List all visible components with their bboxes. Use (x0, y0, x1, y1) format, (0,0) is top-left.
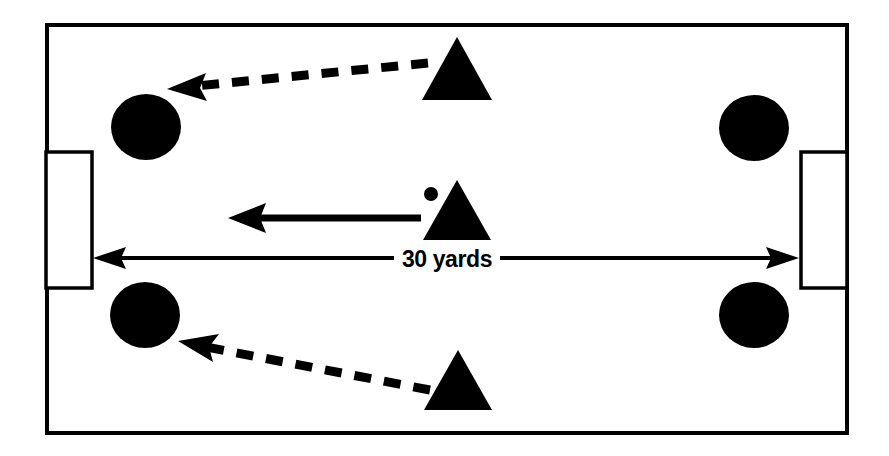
goal-right (801, 152, 847, 288)
goal-left (46, 152, 92, 288)
marker-top-right (719, 95, 789, 161)
drill-diagram-canvas: 30 yards (0, 0, 889, 456)
run-arrow-top (167, 63, 428, 101)
player-bottom (424, 350, 492, 410)
ball-marker (424, 187, 438, 201)
dimension-label: 30 yards (402, 246, 492, 272)
marker-top-left (111, 94, 181, 160)
marker-bottom-left (110, 282, 180, 348)
player-top (422, 37, 492, 100)
diagram-svg: 30 yards (0, 0, 889, 456)
run-arrow-bottom (178, 334, 430, 390)
marker-bottom-right (719, 282, 789, 348)
pass-arrow-middle (228, 203, 421, 233)
